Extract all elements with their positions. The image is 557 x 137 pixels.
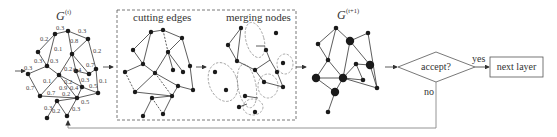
svg-text:0.2: 0.2 (64, 78, 72, 85)
input-graph-superscript: (t) (65, 8, 71, 16)
svg-text:0.3: 0.3 (34, 57, 42, 64)
svg-text:0.2: 0.2 (52, 107, 60, 114)
svg-text:0.3: 0.3 (44, 104, 52, 111)
svg-text:0.3: 0.3 (50, 57, 58, 64)
svg-text:0.3: 0.3 (78, 27, 86, 34)
svg-text:0.3: 0.3 (24, 64, 32, 71)
decision-diamond: accept? (398, 52, 475, 82)
svg-text:0.2: 0.2 (93, 47, 101, 54)
output-graph-superscript: (t+1) (346, 7, 359, 15)
input-graph: G (t) (24, 8, 107, 120)
svg-text:0.1: 0.1 (43, 77, 51, 84)
svg-text:0.1: 0.1 (99, 77, 107, 84)
svg-text:0.2: 0.2 (62, 90, 70, 97)
svg-text:0.7: 0.7 (26, 84, 35, 91)
svg-text:0.8: 0.8 (70, 37, 78, 44)
svg-text:0.5: 0.5 (81, 98, 89, 105)
input-graph-title: G (56, 9, 65, 23)
output-graph: G (t+1) (312, 7, 380, 114)
svg-text:0.5: 0.5 (89, 82, 97, 89)
no-label: no (424, 86, 434, 97)
yes-label: yes (472, 53, 485, 64)
next-layer-box: next layer (490, 57, 543, 77)
cutting-edges-label: cutting edges (133, 11, 191, 23)
svg-text:0.3: 0.3 (56, 24, 64, 31)
svg-text:0.4: 0.4 (73, 66, 82, 73)
svg-text:0.3: 0.3 (72, 105, 80, 112)
next-layer-label: next layer (497, 61, 537, 72)
merge-clusters (203, 20, 293, 115)
svg-text:0.1: 0.1 (54, 45, 62, 52)
svg-text:0.4: 0.4 (70, 84, 79, 91)
merging-nodes-label: merging nodes (226, 11, 291, 23)
svg-text:0.3: 0.3 (81, 76, 89, 83)
svg-text:0.7: 0.7 (47, 89, 56, 96)
svg-text:0.2: 0.2 (40, 35, 48, 42)
svg-text:0.7: 0.7 (86, 61, 95, 68)
cutting-graph-nodes (123, 28, 195, 118)
svg-text:0.2: 0.2 (64, 65, 72, 72)
decision-label: accept? (421, 61, 452, 72)
output-graph-title: G (337, 8, 346, 22)
process-box: cutting edges merging nodes (117, 10, 296, 120)
feedback-loop-arrow (68, 82, 436, 128)
pooling-diagram: G (t) (0, 0, 557, 137)
